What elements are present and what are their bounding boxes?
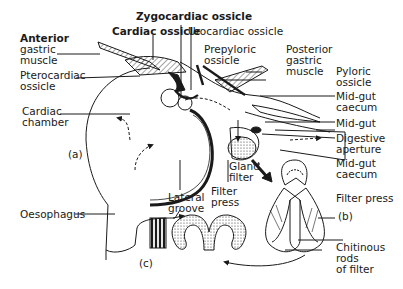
label-posterior-gastric-muscle-3: muscle (286, 66, 324, 77)
panel-c-drawing (150, 215, 246, 250)
label-zygocardiac-ossicle: Zygocardiac ossicle (136, 11, 252, 22)
label-oesophagus: Oesophagus (20, 209, 85, 220)
label-mid-gut-caecum-b-2: caecum (336, 169, 377, 180)
label-panel-b: (b) (338, 211, 353, 222)
label-digestive-aperture-2: aperture (336, 144, 381, 155)
label-gland-filter-2: filter (229, 172, 253, 183)
label-mid-gut: Mid-gut (336, 118, 376, 129)
label-filter-press-b: Filter press (336, 193, 394, 204)
label-panel-a: (a) (68, 149, 83, 160)
foregut-diagram: Zygocardiac ossicle Cardiac ossicle Uroc… (0, 0, 403, 289)
label-urocardiac-ossicle: Urocardiac ossicle (188, 26, 283, 37)
panel-b-drawing (266, 160, 343, 252)
label-cardiac-chamber-2: chamber (22, 117, 69, 128)
label-filter-press-a-2: press (211, 197, 239, 208)
cardiac-ossicle (125, 56, 186, 75)
label-anterior-gastric-muscle-3: muscle (20, 55, 58, 66)
label-mid-gut-caecum-2: caecum (336, 102, 377, 113)
posterior-gastric-muscle (215, 66, 268, 92)
label-lateral-groove-2: groove (168, 203, 204, 214)
label-pterocardiac-ossicle-2: ossicle (20, 81, 55, 92)
label-chitinous-rods-3: of filter (336, 264, 374, 275)
label-prepyloric-ossicle-2: ossicle (204, 55, 239, 66)
label-pyloric-ossicle-2: ossicle (336, 77, 371, 88)
label-panel-c: (c) (139, 258, 153, 269)
